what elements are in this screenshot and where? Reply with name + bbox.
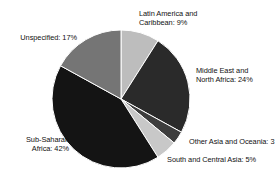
slice-label-latin-america-line2: Caribbean: 9% [139, 18, 197, 27]
slice-label-middle-east-north-africa-line1: Middle East and [196, 66, 253, 75]
slice-label-unspecified-line1: Unspecified: 17% [20, 33, 77, 42]
slice-label-middle-east-north-africa-line2: North Africa: 24% [196, 75, 253, 84]
pie-slice-group [52, 30, 190, 168]
slice-label-sub-saharan-africa: Sub-Saharan Africa: 42% [26, 135, 69, 154]
slice-label-latin-america: Latin America and Caribbean: 9% [139, 9, 197, 28]
slice-label-middle-east-north-africa: Middle East and North Africa: 24% [196, 66, 253, 85]
slice-label-other-asia-oceania: Other Asia and Oceania: 3 [189, 137, 274, 146]
slice-label-other-asia-oceania-line1: Other Asia and Oceania: 3 [189, 137, 274, 146]
slice-label-latin-america-line1: Latin America and [139, 9, 197, 18]
slice-label-sub-saharan-africa-line2: Africa: 42% [26, 144, 69, 153]
chart-page: Latin America and Caribbean: 9% Middle E… [0, 0, 278, 183]
slice-label-south-central-asia: South and Central Asia: 5% [167, 155, 256, 164]
slice-label-unspecified: Unspecified: 17% [20, 33, 77, 42]
slice-label-south-central-asia-line1: South and Central Asia: 5% [167, 155, 256, 164]
slice-label-sub-saharan-africa-line1: Sub-Saharan [26, 135, 69, 144]
